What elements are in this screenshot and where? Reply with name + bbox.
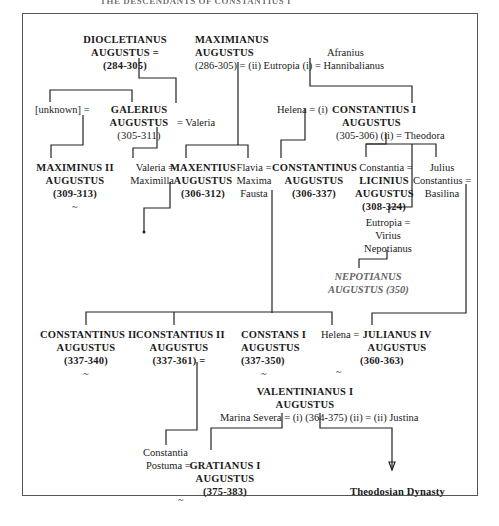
theodosian-dynasty-label: Theodosian Dynasty <box>350 485 440 498</box>
person-galerius: GALERIUS AUGUSTUS (305-311) <box>98 103 180 142</box>
constantius-i-reign: (305-306) (ii) = Theodora <box>336 129 445 142</box>
valentinianus-marriages: Marina Severa = (i) (364-375) (ii) = (ii… <box>220 411 400 424</box>
descendants-tilde: ~ <box>32 200 118 213</box>
person-constantia-postuma: Constantia Postuma = <box>143 446 191 472</box>
reign: (306-312) <box>168 187 238 200</box>
person-constantinus-ii: CONSTANTINUS II AUGUSTUS (337-340) ~ <box>40 328 132 380</box>
title: AUGUSTUS <box>272 174 356 187</box>
name: [unknown] = <box>35 104 90 115</box>
reign: (337-361) = <box>136 354 222 367</box>
name: NEPOTIANUS <box>328 270 408 283</box>
name: MAXIMINUS II <box>32 161 118 174</box>
name: CONSTANS I <box>241 328 306 341</box>
person-julius-constantius: Julius Constantius = Basilina <box>412 161 472 200</box>
title: AUGUSTUS <box>98 116 180 129</box>
reign: (308-324) <box>355 200 413 213</box>
person-licinius: LICINIUS AUGUSTUS (308-324) <box>355 174 413 213</box>
maximianus-reign-marriages: (286-305) = (ii) Eutropia (i) = Hannibal… <box>195 59 384 72</box>
person-valeria-maximilla: Valeria = Maximilla <box>119 161 174 187</box>
reign: (375-383) <box>185 485 265 498</box>
name: Afranius <box>327 47 364 58</box>
person-valentinianus-i: VALENTINIANUS I AUGUSTUS <box>255 385 355 411</box>
name: VALENTINIANUS I <box>255 385 355 398</box>
title: AUGUSTUS <box>32 174 118 187</box>
title: AUGUSTUS <box>332 116 416 129</box>
title: AUGUSTUS <box>136 341 222 354</box>
title: AUGUSTUS <box>195 46 269 59</box>
person-eutropia: Eutropia = Virius Nepotianus <box>360 216 416 255</box>
name: MAXENTIUS <box>168 161 238 174</box>
person-constantinus: CONSTANTINUS AUGUSTUS (306-337) <box>272 161 356 200</box>
name: CONSTANTIUS I <box>332 103 416 116</box>
person-constantius-i: CONSTANTIUS I AUGUSTUS <box>332 103 416 129</box>
title: AUGUSTUS <box>255 398 355 411</box>
title: AUGUSTUS <box>355 187 413 200</box>
person-unknown: [unknown] = <box>35 103 90 116</box>
name: GRATIANUS I <box>185 459 265 472</box>
reign: (305-311) <box>98 129 180 142</box>
person-maximianus: MAXIMIANUS AUGUSTUS <box>195 33 269 59</box>
person-gratianus-i: GRATIANUS I AUGUSTUS (375-383) <box>185 459 265 498</box>
descendants-tilde: ~ <box>40 367 132 380</box>
person-maxentius: MAXENTIUS AUGUSTUS (306-312) <box>168 161 238 200</box>
person-nepotianus: NEPOTIANUS AUGUSTUS (350) <box>328 270 408 296</box>
person-fausta: Flavia = Maxima Fausta <box>234 161 274 200</box>
reign: (309-313) <box>32 187 118 200</box>
connector-lines <box>0 0 499 526</box>
reign: (337-340) <box>40 354 132 367</box>
name: CONSTANTIUS II <box>136 328 222 341</box>
title: AUGUSTUS <box>40 341 132 354</box>
title-reign: AUGUSTUS (350) <box>328 283 408 296</box>
title: AUGUSTUS = <box>70 46 180 59</box>
name: MAXIMIANUS <box>195 33 269 46</box>
helena-descendants-tilde: ~ <box>336 366 341 377</box>
gratianus-descendants-tilde: ~ <box>178 494 183 505</box>
person-constantia: Constantia = <box>355 161 417 174</box>
descendants-tilde: ~ <box>241 367 306 380</box>
galerius-spouse: = Valeria <box>177 116 215 129</box>
person-julianus-iv: JULIANUS IV AUGUSTUS (360-363) <box>356 328 438 367</box>
name: DIOCLETIANUS <box>70 33 180 46</box>
reign: (337-350) <box>241 354 306 367</box>
person-constantius-ii: CONSTANTIUS II AUGUSTUS (337-361) = <box>136 328 222 367</box>
title: AUGUSTUS <box>185 472 265 485</box>
person-diocletianus: DIOCLETIANUS AUGUSTUS = (284-305) <box>70 33 180 72</box>
name: JULIANUS IV <box>356 328 438 341</box>
name: CONSTANTINUS II <box>40 328 132 341</box>
reign: (306-337) <box>272 187 356 200</box>
title: AUGUSTUS <box>356 341 438 354</box>
person-helena-julianus: Helena = <box>321 328 359 341</box>
reign: (284-305) <box>70 59 180 72</box>
reign: (360-363) <box>356 354 438 367</box>
person-helena: Helena = (i) <box>277 103 328 116</box>
title: AUGUSTUS <box>241 341 306 354</box>
person-constans-i: CONSTANS I AUGUSTUS (337-350) ~ <box>241 328 306 380</box>
name: LICINIUS <box>355 174 413 187</box>
person-maximinus-ii: MAXIMINUS II AUGUSTUS (309-313) ~ <box>32 161 118 213</box>
reign: (286-305) = (ii) Eutropia (i) = Hannibal… <box>195 60 384 71</box>
person-afranius: Afranius <box>327 46 364 59</box>
name: CONSTANTINUS <box>272 161 356 174</box>
title: AUGUSTUS <box>168 174 238 187</box>
name: GALERIUS <box>98 103 180 116</box>
